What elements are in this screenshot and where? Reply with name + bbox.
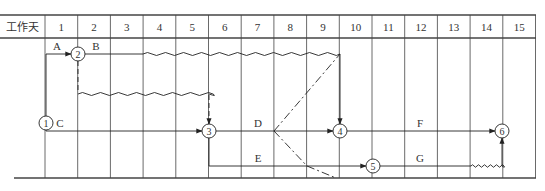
node-3: 3 [202, 124, 216, 138]
node-5: 5 [366, 159, 380, 173]
activity-label-e: E [255, 152, 262, 164]
activity-a-arrow [46, 54, 71, 116]
header-row: 工作天 123456789101112131415 [6, 21, 526, 33]
activity-label-g: G [416, 152, 424, 164]
node-number: 5 [371, 161, 376, 172]
node-number: 6 [500, 126, 505, 137]
node-6: 6 [495, 124, 509, 138]
node-number: 3 [207, 126, 212, 137]
activity-label-d: D [254, 117, 262, 129]
day-label: 13 [448, 21, 460, 33]
day-label: 9 [320, 21, 326, 33]
node-number: 4 [338, 126, 343, 137]
activity-lines [46, 53, 504, 179]
day-label: 4 [157, 21, 163, 33]
day-label: 11 [383, 21, 394, 33]
time-scaled-network-diagram: 工作天 123456789101112131415 123456 ABCDEFG [0, 0, 545, 191]
day-label: 1 [59, 21, 65, 33]
activity-g-free-float-wave [471, 165, 504, 168]
activity-e-arrow [209, 138, 366, 166]
day-column-lines [45, 15, 536, 178]
activity-labels: ABCDEFG [53, 40, 424, 164]
node-4: 4 [333, 124, 347, 138]
dash-dot-line-lower [274, 131, 307, 166]
activity-label-f: F [417, 117, 423, 129]
activity-label-c: C [56, 117, 63, 129]
grid-table [0, 15, 536, 178]
day-label: 2 [91, 21, 97, 33]
day-label: 14 [481, 21, 493, 33]
dummy-free-float-wave [78, 93, 215, 96]
node-1: 1 [39, 116, 53, 130]
node-number: 2 [76, 49, 81, 60]
row-label-workday: 工作天 [6, 21, 39, 33]
day-label: 15 [514, 21, 526, 33]
activity-c-arrow [46, 130, 202, 131]
node-2: 2 [71, 47, 85, 61]
day-label: 3 [124, 21, 130, 33]
day-label: 12 [416, 21, 427, 33]
day-label: 7 [255, 21, 261, 33]
day-label: 5 [189, 21, 195, 33]
day-label: 10 [350, 21, 362, 33]
dash-dot-line-tail [307, 166, 336, 178]
activity-label-a: A [53, 40, 61, 52]
day-label: 6 [222, 21, 228, 33]
node-number: 1 [44, 118, 49, 129]
day-label: 8 [288, 21, 294, 33]
activity-label-b: B [92, 40, 99, 52]
